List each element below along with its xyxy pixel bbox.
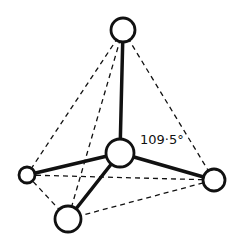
atom-top xyxy=(111,18,135,42)
bond-angle-label: 109·5° xyxy=(140,132,184,147)
dashed-edge-bottom-right xyxy=(68,180,214,219)
bond-center-top xyxy=(120,30,123,153)
atom-left xyxy=(19,167,35,183)
atom-center xyxy=(106,139,134,167)
bonds xyxy=(27,30,214,219)
atom-right xyxy=(203,169,225,191)
tetrahedron-diagram: 109·5° xyxy=(0,0,242,251)
atom-bottom xyxy=(55,206,81,232)
dashed-edge-top-bottom xyxy=(68,30,123,219)
dashed-edge-left-right xyxy=(27,175,214,180)
